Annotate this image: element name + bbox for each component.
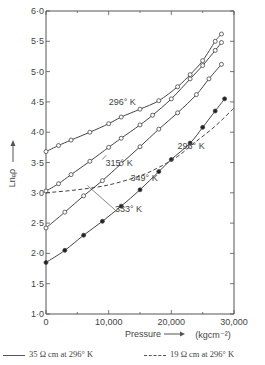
data-point-marker <box>207 77 211 81</box>
y-tick-label: 5·5 <box>31 36 44 46</box>
data-point-marker <box>213 48 217 52</box>
y-tick-label: 2·0 <box>31 248 44 258</box>
data-point-marker <box>107 145 111 149</box>
resistivity-pressure-chart: 1·01·52·02·53·03·54·04·55·05·56·0010,000… <box>0 0 265 365</box>
x-tick-label: 20,000 <box>158 317 186 327</box>
data-point-marker <box>219 32 223 36</box>
data-point-marker <box>100 179 104 183</box>
data-point-marker <box>69 173 73 177</box>
y-tick-label: 6·0 <box>31 6 44 16</box>
dashed-line-swatch <box>144 355 166 356</box>
axes: 1·01·52·02·53·03·54·04·55·05·56·0010,000… <box>7 6 248 340</box>
data-point-marker <box>138 145 142 149</box>
data-point-marker <box>63 210 67 214</box>
x-axis-label: Pressure <box>125 329 161 339</box>
y-tick-label: 3·5 <box>31 158 44 168</box>
data-point-marker <box>107 122 111 126</box>
data-point-marker <box>201 59 205 63</box>
data-point-marker <box>69 138 73 142</box>
y-axis-arrow-icon <box>11 140 16 146</box>
data-point-marker <box>219 41 223 45</box>
series-layer <box>44 32 234 264</box>
curve-label-2: 296° K <box>178 141 205 151</box>
y-tick-label: 3·0 <box>31 188 44 198</box>
y-tick-label: 1·5 <box>31 279 44 289</box>
data-point-marker <box>119 136 123 140</box>
data-point-marker <box>63 248 67 252</box>
data-point-marker <box>213 39 217 43</box>
y-axis-label: Lnₑρ <box>7 169 17 187</box>
data-point-marker <box>201 125 205 129</box>
solid-line-swatch <box>3 355 25 356</box>
x-tick-label: 10,000 <box>95 317 123 327</box>
x-tick-label: 0 <box>43 317 48 327</box>
data-point-marker <box>44 226 48 230</box>
data-point-marker <box>219 62 223 66</box>
data-point-marker <box>169 97 173 101</box>
data-point-marker <box>82 233 86 237</box>
y-tick-label: 1·0 <box>31 309 44 319</box>
annotation-layer: 296° K315° K296° K349° K333° K <box>87 97 204 214</box>
data-point-marker <box>57 144 61 148</box>
y-tick-label: 5·0 <box>31 67 44 77</box>
x-axis-unit: (kgcm⁻²) <box>195 330 231 340</box>
data-point-marker <box>100 219 104 223</box>
curve-label-0: 296° K <box>109 97 136 107</box>
data-point-marker <box>138 123 142 127</box>
data-point-marker <box>88 130 92 134</box>
data-point-marker <box>157 99 161 103</box>
data-point-marker <box>194 93 198 97</box>
data-point-marker <box>88 159 92 163</box>
legend-label-solid: 35 Ω cm at 296° K <box>29 349 93 359</box>
series-line-1 <box>46 43 221 191</box>
data-point-marker <box>188 73 192 77</box>
data-point-marker <box>44 150 48 154</box>
data-point-marker <box>119 115 123 119</box>
y-tick-label: 2·5 <box>31 218 44 228</box>
legend-item-solid: 35 Ω cm at 296° K <box>3 349 93 359</box>
data-point-marker <box>176 111 180 115</box>
curve-label-1: 315° K <box>106 158 133 168</box>
data-point-marker <box>57 182 61 186</box>
curve-label-3: 349° K <box>131 173 158 183</box>
legend-label-dashed: 19 Ω cm at 296° K <box>170 349 234 359</box>
data-point-marker <box>176 85 180 89</box>
data-point-marker <box>223 97 227 101</box>
curve-label-4: 333° K <box>115 204 142 214</box>
leader-line-333 <box>87 186 115 210</box>
data-point-marker <box>82 194 86 198</box>
x-axis-arrow-icon <box>180 332 185 337</box>
data-point-marker <box>44 260 48 264</box>
y-tick-label: 4·0 <box>31 127 44 137</box>
data-point-marker <box>151 113 155 117</box>
x-tick-label: 30,000 <box>220 317 248 327</box>
data-point-marker <box>201 64 205 68</box>
data-point-marker <box>157 127 161 131</box>
data-point-marker <box>138 107 142 111</box>
data-point-marker <box>138 188 142 192</box>
data-point-marker <box>213 109 217 113</box>
y-tick-label: 4·5 <box>31 97 44 107</box>
data-point-marker <box>188 77 192 81</box>
legend-item-dashed: 19 Ω cm at 296° K <box>144 349 234 359</box>
